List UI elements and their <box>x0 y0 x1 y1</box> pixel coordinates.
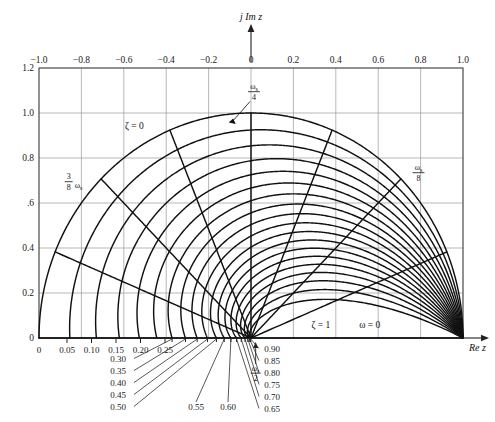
x-tick-label-top: 0.4 <box>330 55 342 65</box>
svg-text:8: 8 <box>67 183 71 192</box>
zeta-leader-label: 0.60 <box>220 402 236 412</box>
zeta-bottom-tick-label: 0 <box>37 345 42 355</box>
zeta-leader-label: 0.75 <box>264 380 280 390</box>
x-tick-label-top: −0.6 <box>115 55 132 65</box>
zeta-leader-label: 0.45 <box>110 390 126 400</box>
chart-svg: j Im zRe z −1.0−0.8−0.6−0.4−0.200.20.40.… <box>0 0 495 422</box>
annotation-zeta-zero: ζ = 0 <box>125 121 144 132</box>
y-tick-label: 0 <box>29 333 34 343</box>
zeta-leader-label: 0.30 <box>110 354 126 364</box>
zeta-leader-label: 0.90 <box>264 344 280 354</box>
x-tick-label-top: −0.8 <box>73 55 90 65</box>
annotation-omega-zero: ω = 0 <box>359 320 380 330</box>
svg-text:3: 3 <box>67 172 71 181</box>
y-tick-label: 1.0 <box>22 108 34 118</box>
y-tick-label: 1.2 <box>22 63 34 73</box>
zeta-bottom-tick-label: 0.20 <box>133 345 149 355</box>
x-tick-label-top: −0.4 <box>158 55 175 65</box>
real-axis-label-text: Re z <box>468 342 486 353</box>
x-tick-label-top: 0.6 <box>372 55 384 65</box>
y-tick-label: 0.8 <box>22 153 34 163</box>
zeta-leader-label: 0.85 <box>264 356 280 366</box>
svg-text:2: 2 <box>254 374 258 383</box>
zeta-bottom-tick-label: 0.05 <box>59 345 75 355</box>
svg-text:4: 4 <box>252 93 256 102</box>
x-tick-label-top: −0.2 <box>200 55 217 65</box>
x-tick-label-top: 1.0 <box>457 55 469 65</box>
zeta-leader-label: 0.55 <box>188 402 204 412</box>
svg-text:8: 8 <box>416 174 420 183</box>
zeta-bottom-tick-label: 0.10 <box>84 345 100 355</box>
x-tick-label-top: 0.8 <box>415 55 427 65</box>
zeta-leader-label: 0.70 <box>264 392 280 402</box>
zeta-leader-label: 0.50 <box>110 402 126 412</box>
x-tick-label-top: 0 <box>249 55 254 65</box>
imag-axis-label-text: j Im z <box>238 11 262 22</box>
zeta-bottom-tick-label: 0.25 <box>157 345 173 355</box>
zeta-leader-label: 0.65 <box>264 404 280 414</box>
zeta-leader-label: 0.35 <box>110 366 126 376</box>
zeta-leader-label: 0.40 <box>110 378 126 388</box>
y-tick-label: .6 <box>27 198 34 208</box>
zeta-leader-label: 0.80 <box>264 368 280 378</box>
y-tick-label: 0.4 <box>22 243 34 253</box>
annotation-zeta-one: ζ = 1 <box>312 320 331 331</box>
x-tick-label-top: 0.2 <box>287 55 299 65</box>
z-plane-damping-chart: j Im zRe z −1.0−0.8−0.6−0.4−0.200.20.40.… <box>0 0 495 422</box>
y-tick-label: 0.2 <box>22 288 34 298</box>
